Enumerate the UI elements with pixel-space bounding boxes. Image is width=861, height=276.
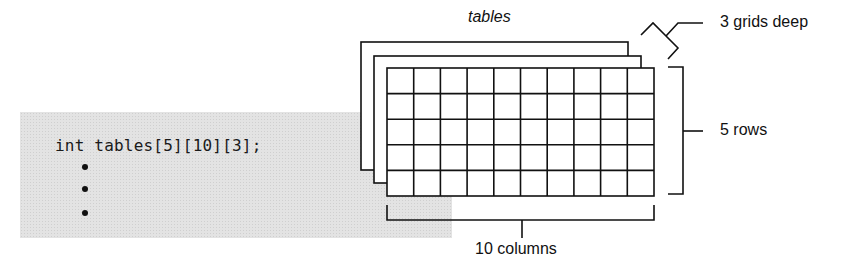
array-name-label: tables [468,8,511,26]
array-diagram: int tables[5][10][3]; tables 3 grids dee… [0,0,861,276]
grid-sheet-front [387,68,654,196]
rows-label: 5 rows [720,121,767,139]
rows-bracket [668,67,683,194]
depth-label: 3 grids deep [720,13,808,31]
depth-leader [666,23,703,36]
columns-bracket [387,205,654,220]
columns-label: 10 columns [475,240,557,258]
